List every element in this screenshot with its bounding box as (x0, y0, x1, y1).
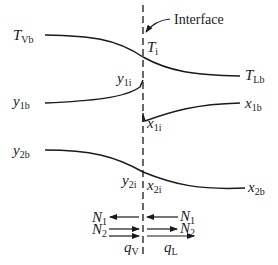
label-y-1b: y1b (11, 93, 30, 111)
label-y-1i: y1i (115, 70, 132, 88)
label-qL: qL (164, 239, 178, 257)
label-y-2i: y2i (120, 172, 137, 190)
label-T-i: Ti (147, 39, 158, 57)
y2-vapor-curve (45, 150, 143, 172)
label-T-Lb: TLb (245, 67, 264, 85)
label-x-2i: x2i (146, 177, 162, 195)
label-x-2b: x2b (247, 179, 265, 197)
label-x-1b: x1b (244, 95, 262, 113)
interface-profile-diagram: Interface TVb Ti TLb y1b y1i x1b x1i y2b… (0, 0, 278, 265)
interface-pointer-arrow (146, 19, 170, 32)
liquid-temperature-curve (143, 57, 240, 76)
label-qV: qV (124, 239, 140, 257)
interface-label: Interface (174, 12, 224, 27)
label-T-Vb: TVb (13, 27, 34, 45)
vapor-temperature-curve (45, 35, 143, 57)
label-y-2b: y2b (11, 142, 30, 160)
x1-liquid-curve (143, 103, 240, 121)
